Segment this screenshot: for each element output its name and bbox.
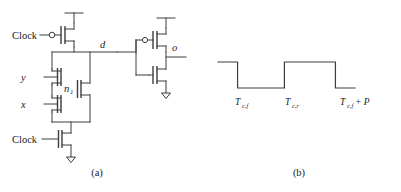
nmos-transistor-icon-eval [42, 130, 71, 148]
pmos-transistor-icon-precharge [40, 23, 74, 47]
timing-label-1-sub: c,f [242, 102, 249, 109]
nmos-transistor-icon-mid [78, 80, 91, 98]
clock-waveform [218, 62, 355, 88]
ground-icon-inverter [162, 93, 171, 99]
timing-label-2: T c,r [285, 97, 299, 109]
caption-panel-b: (b) [293, 167, 306, 179]
figure-root: Clock d y n 1 [0, 0, 401, 192]
vdd-rail-icon-inverter [157, 18, 175, 28]
nmos-transistor-icon-x [44, 95, 61, 113]
timing-label-3-suffix: + P [355, 97, 370, 107]
node-n1-label-base: n [64, 83, 69, 94]
panel-a-schematic: Clock d y n 1 [12, 13, 186, 179]
node-d-label: d [100, 39, 106, 50]
panel-b-timing: T c,f T c,r T c,f + P (b) [218, 62, 370, 179]
timing-label-2-base: T [285, 97, 291, 107]
input-y-label: y [20, 72, 26, 83]
timing-label-1-base: T [235, 97, 241, 107]
timing-label-3-base: T [340, 97, 346, 107]
clock-top-label: Clock [12, 30, 38, 41]
timing-label-3: T c,f + P [340, 97, 370, 109]
node-n1-label-sub: 1 [70, 88, 73, 95]
timing-label-2-sub: c,r [292, 102, 299, 109]
output-o-label: o [172, 42, 177, 53]
figure-svg: Clock d y n 1 [0, 0, 401, 192]
vdd-rail-icon-precharge [65, 13, 83, 23]
nmos-transistor-icon-y [44, 68, 61, 86]
ground-icon-eval [67, 157, 76, 163]
input-x-label: x [20, 99, 26, 110]
clock-bottom-label: Clock [12, 134, 38, 145]
caption-panel-a: (a) [91, 167, 103, 179]
nmos-transistor-icon-inverter [149, 52, 166, 93]
timing-label-1: T c,f [235, 97, 249, 109]
timing-label-3-sub: c,f [347, 102, 354, 109]
pmos-transistor-icon-inverter [142, 28, 166, 52]
